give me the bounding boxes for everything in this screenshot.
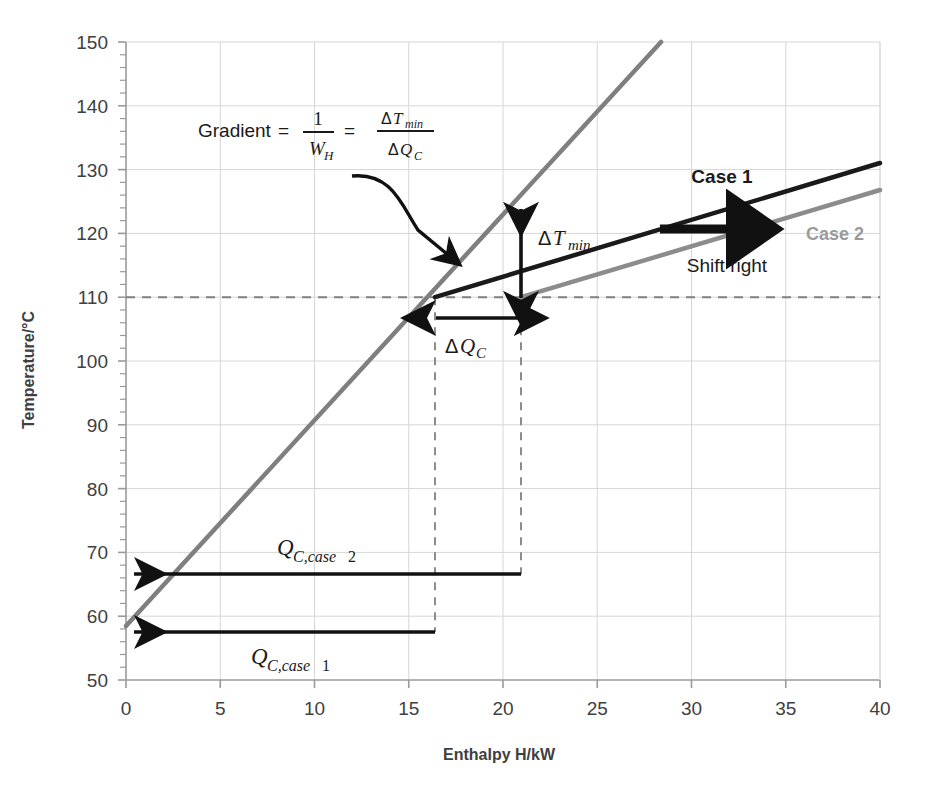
qc-case2-subscript: C,case xyxy=(293,548,336,565)
delta-t-min-delta: Δ xyxy=(538,227,551,249)
delta-q-c-subscript: C xyxy=(476,345,487,361)
x-tick-25: 25 xyxy=(587,698,608,719)
y-tick-50: 50 xyxy=(87,670,108,691)
x-axis-major-ticks xyxy=(126,680,880,688)
x-tick-35: 35 xyxy=(775,698,796,719)
x-tick-10: 10 xyxy=(304,698,325,719)
gradient-equals-2: = xyxy=(344,120,355,141)
qc-case1-subscript: C,case xyxy=(267,657,310,674)
y-tick-150: 150 xyxy=(76,32,108,53)
x-tick-5: 5 xyxy=(215,698,226,719)
enthalpy-temperature-chart: 150 140 130 120 110 100 90 80 70 60 50 0… xyxy=(0,0,926,800)
y-tick-110: 110 xyxy=(78,287,108,308)
gradient-numerator-one: 1 xyxy=(313,108,323,129)
y-tick-130: 130 xyxy=(76,160,108,181)
gradient-word: Gradient xyxy=(198,120,272,141)
x-tick-0: 0 xyxy=(121,698,132,719)
chart-container: 150 140 130 120 110 100 90 80 70 60 50 0… xyxy=(0,0,926,800)
y-tick-100: 100 xyxy=(76,351,108,372)
y-tick-labels: 150 140 130 120 110 100 90 80 70 60 50 xyxy=(76,32,108,691)
gradient-delta-q: Δ xyxy=(388,141,399,158)
x-tick-20: 20 xyxy=(492,698,513,719)
y-tick-140: 140 xyxy=(76,96,108,117)
y-axis-title: Temperature/°C xyxy=(20,310,37,429)
y-axis-major-ticks xyxy=(118,42,126,680)
qc-case2-number: 2 xyxy=(348,548,356,565)
y-tick-60: 60 xyxy=(87,606,108,627)
y-tick-90: 90 xyxy=(87,415,108,436)
qc-case1-number: 1 xyxy=(322,657,330,674)
gradient-delta-t: Δ xyxy=(381,110,392,127)
gradient-denominator-w-sub: H xyxy=(323,148,334,163)
delta-q-c-Q: Q xyxy=(460,334,475,358)
x-tick-labels: 0 5 10 15 20 25 30 35 40 xyxy=(121,698,891,719)
y-tick-80: 80 xyxy=(87,479,108,500)
gradient-t-subscript: min xyxy=(405,117,423,131)
delta-t-min-subscript: min xyxy=(568,237,591,253)
y-tick-70: 70 xyxy=(87,542,108,563)
case2-label: Case 2 xyxy=(806,224,864,244)
x-axis-title: Enthalpy H/kW xyxy=(443,746,556,763)
gradient-q-subscript: C xyxy=(414,149,423,163)
qc-case2-Q: Q xyxy=(277,535,294,560)
qc-case1-Q: Q xyxy=(251,644,268,669)
case1-label: Case 1 xyxy=(691,166,753,187)
shift-right-label: Shift right xyxy=(687,255,768,276)
delta-t-min-T: T xyxy=(553,226,566,250)
gradient-equals-1: = xyxy=(278,120,289,141)
y-tick-120: 120 xyxy=(76,223,108,244)
gradient-q-symbol: Q xyxy=(400,140,412,159)
x-tick-30: 30 xyxy=(681,698,702,719)
gradient-t-symbol: T xyxy=(393,109,404,128)
delta-q-c-delta: Δ xyxy=(445,335,458,357)
x-tick-40: 40 xyxy=(869,698,890,719)
x-tick-15: 15 xyxy=(398,698,419,719)
